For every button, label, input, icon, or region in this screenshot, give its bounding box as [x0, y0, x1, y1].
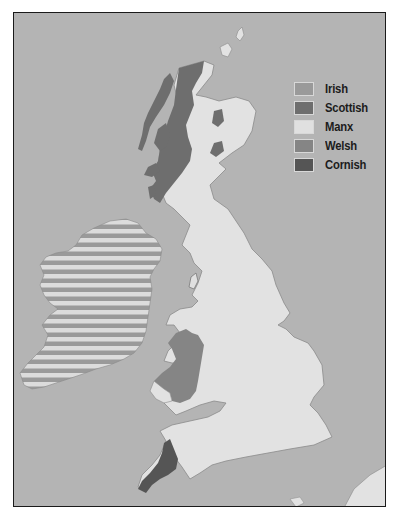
- legend-label: Cornish: [325, 158, 366, 172]
- map-frame: Irish Scottish Manx Welsh Cornish: [13, 12, 386, 507]
- legend-label: Manx: [325, 120, 353, 134]
- legend-swatch-scottish: [294, 101, 314, 115]
- legend-swatch-irish: [294, 82, 314, 96]
- legend: Irish Scottish Manx Welsh Cornish: [294, 79, 384, 174]
- legend-label: Irish: [325, 82, 348, 96]
- legend-item-manx: Manx: [294, 117, 384, 136]
- legend-swatch-welsh: [294, 139, 314, 153]
- legend-item-irish: Irish: [294, 79, 384, 98]
- legend-swatch-manx: [294, 120, 314, 134]
- legend-swatch-cornish: [294, 158, 314, 172]
- legend-label: Welsh: [325, 139, 357, 153]
- legend-item-welsh: Welsh: [294, 136, 384, 155]
- legend-label: Scottish: [325, 101, 368, 115]
- legend-item-scottish: Scottish: [294, 98, 384, 117]
- legend-item-cornish: Cornish: [294, 155, 384, 174]
